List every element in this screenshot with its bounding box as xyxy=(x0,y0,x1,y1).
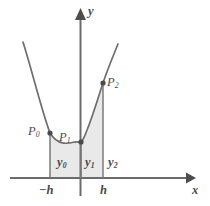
label-ordinate-y0-sub: 0 xyxy=(63,161,67,170)
figure-container: P0 P1 P2 y0 y1 y2 −h h y x xyxy=(0,0,210,206)
x-axis-label: x xyxy=(192,184,198,197)
parabola-figure-svg xyxy=(0,0,210,206)
y-axis-label: y xyxy=(88,5,94,18)
label-point-p1-name: P xyxy=(59,130,67,144)
y-axis-arrowhead-icon xyxy=(75,8,86,20)
label-point-p1: P1 xyxy=(59,131,71,144)
x-axis-arrowhead-icon xyxy=(186,173,196,184)
label-ordinate-y1-name: y xyxy=(85,155,91,169)
x-tick-label-minus-h: −h xyxy=(39,184,54,197)
label-point-p1-sub: 1 xyxy=(67,136,71,145)
label-ordinate-y1-sub: 1 xyxy=(91,161,95,170)
label-point-p2: P2 xyxy=(107,76,119,89)
x-tick-label-h: h xyxy=(100,184,107,197)
label-point-p0-sub: 0 xyxy=(36,130,40,139)
label-ordinate-y2: y2 xyxy=(108,156,117,169)
label-ordinate-y0-name: y xyxy=(57,155,63,169)
label-ordinate-y0: y0 xyxy=(57,156,66,169)
label-ordinate-y2-sub: 2 xyxy=(114,161,118,170)
label-ordinate-y2-name: y xyxy=(108,155,114,169)
label-point-p0: P0 xyxy=(28,125,40,138)
point-marker-p0 xyxy=(47,130,52,135)
label-point-p2-name: P xyxy=(107,75,115,89)
point-marker-p1 xyxy=(78,139,83,144)
label-ordinate-y1: y1 xyxy=(85,156,94,169)
point-marker-p2 xyxy=(100,80,105,85)
label-point-p0-name: P xyxy=(28,124,36,138)
label-point-p2-sub: 2 xyxy=(115,81,119,90)
